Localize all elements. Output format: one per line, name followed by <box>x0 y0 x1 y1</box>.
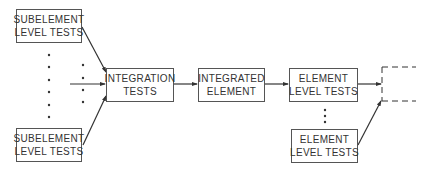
element-level-tests-top: ELEMENT LEVEL TESTS <box>289 68 358 102</box>
node-label-line2: LEVEL TESTS <box>15 145 84 158</box>
node-label-line1: ELEMENT <box>299 72 348 85</box>
node-label-line1: SUBELEMENT <box>14 132 85 145</box>
subelement-level-tests-bottom: SUBELEMENT LEVEL TESTS <box>16 128 82 162</box>
next-stage-dashed-box <box>382 67 416 101</box>
element-level-tests-bottom: ELEMENT LEVEL TESTS <box>291 129 358 163</box>
ellipsis-dots-left <box>48 54 50 118</box>
node-label-line2: TESTS <box>123 85 157 98</box>
node-label-line2: LEVEL TESTS <box>290 146 359 159</box>
integration-tests: INTEGRATION TESTS <box>106 68 174 102</box>
node-label-line1: ELEMENT <box>300 133 349 146</box>
ellipsis-dots-element <box>324 109 326 123</box>
node-label-line2: ELEMENT <box>207 85 256 98</box>
edge-subbottom-integration <box>83 96 106 145</box>
edge-elembottom-next <box>358 101 381 145</box>
subelement-level-tests-top: SUBELEMENT LEVEL TESTS <box>16 9 82 43</box>
node-label-line2: LEVEL TESTS <box>289 85 358 98</box>
integrated-element: INTEGRATED ELEMENT <box>198 68 265 102</box>
node-label-line1: INTEGRATED <box>198 72 265 85</box>
node-label-line1: SUBELEMENT <box>14 13 85 26</box>
node-label-line2: LEVEL TESTS <box>15 26 84 39</box>
edge-subtop-integration <box>82 27 106 72</box>
node-label-line1: INTEGRATION <box>105 72 176 85</box>
